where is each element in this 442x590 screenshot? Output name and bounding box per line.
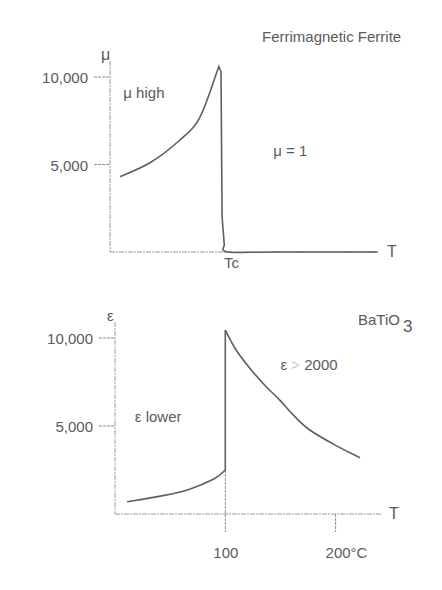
x-ticks: 100200°C — [213, 514, 367, 561]
x-ticks: Tc — [224, 254, 240, 271]
x-tick-label: 100 — [213, 544, 238, 561]
y-axis-label-mu: μ — [101, 46, 110, 63]
title-main: BaTiO — [358, 311, 400, 328]
annotation-value: 2000 — [304, 356, 337, 373]
chart-title-ferrite: Ferrimagnetic Ferrite — [262, 28, 401, 45]
charts-canvas: Ferrimagnetic Ferrite μ T μ high μ = 1 5… — [0, 0, 442, 590]
y-tick-label: 5,000 — [55, 418, 93, 435]
chart-title-batio3: BaTiO3 — [358, 311, 412, 336]
annotation-epsilon-gt-2000: ε > 2000 — [280, 356, 337, 373]
y-ticks: 5,00010,000 — [42, 69, 110, 174]
y-tick-label: 10,000 — [42, 69, 88, 86]
x-axis-label-t: T — [387, 243, 397, 260]
x-axis-label-t: T — [389, 505, 399, 522]
annotation-mu-high: μ high — [123, 84, 164, 101]
title-subscript: 3 — [403, 317, 412, 336]
y-ticks: 5,00010,000 — [47, 330, 115, 435]
annotation-gt-symbol: > — [291, 356, 304, 373]
annotation-epsilon-lower: ε lower — [135, 408, 182, 425]
y-axis-label-epsilon: ε — [107, 307, 114, 324]
y-tick-label: 10,000 — [47, 330, 93, 347]
x-tick-label: 200°C — [326, 544, 368, 561]
annotation-mu-equals-1: μ = 1 — [273, 142, 307, 159]
batio3-chart: BaTiO3 ε T ε lower ε > 2000 5,00010,000 … — [47, 307, 412, 561]
annotation-epsilon-symbol: ε — [280, 356, 291, 373]
x-tick-label: Tc — [224, 254, 240, 271]
y-tick-label: 5,000 — [50, 157, 88, 174]
ferrite-chart: Ferrimagnetic Ferrite μ T μ high μ = 1 5… — [42, 28, 401, 271]
